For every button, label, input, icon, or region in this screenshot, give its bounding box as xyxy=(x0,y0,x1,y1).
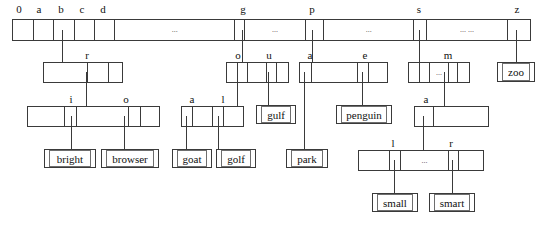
node-go-cell-3[interactable] xyxy=(224,107,243,126)
node-sm-cell-1[interactable] xyxy=(434,107,488,126)
leaf-zoo[interactable]: zoo xyxy=(497,62,535,82)
edge-g-to-gulf xyxy=(268,72,269,105)
leaf-penguin[interactable]: penguin xyxy=(336,105,392,124)
node-p-label-a: a xyxy=(303,50,317,61)
root-cell-g[interactable] xyxy=(235,20,245,40)
node-g-cell-o[interactable] xyxy=(238,63,249,82)
leaf-bright-label: bright xyxy=(49,150,91,167)
node-g[interactable] xyxy=(226,62,289,83)
node-p-cell-a[interactable] xyxy=(300,63,312,82)
node-s-label-m: m xyxy=(441,50,455,61)
edge-p-to-penguin xyxy=(362,72,363,105)
node-sma-cell-l[interactable] xyxy=(390,151,401,170)
edge-g-to-go xyxy=(237,72,238,106)
node-sma-cell-4[interactable] xyxy=(459,151,483,170)
node-br-label-i: i xyxy=(64,94,78,105)
node-s-cell-m[interactable] xyxy=(449,63,459,82)
node-s-cell-4[interactable] xyxy=(458,63,469,82)
edge-br-to-browser xyxy=(124,116,125,149)
node-sma-cell-ellipsis: ... xyxy=(401,151,448,170)
node-br-cell-2[interactable] xyxy=(77,107,129,126)
node-p-cell-3[interactable] xyxy=(369,63,387,82)
leaf-goat[interactable]: goat xyxy=(172,149,212,168)
leaf-zoo-label: zoo xyxy=(502,63,530,81)
edge-go-to-golf xyxy=(218,116,219,149)
edge-s-to-sm xyxy=(444,72,445,106)
leaf-smart[interactable]: smart xyxy=(429,193,475,212)
root-cell-ellipsis-3: ... xyxy=(324,20,414,40)
node-br-cell-0[interactable] xyxy=(28,107,65,126)
node-sm-label-a: a xyxy=(419,94,433,105)
leaf-browser-label: browser xyxy=(106,150,154,167)
leaf-small-label: small xyxy=(377,194,413,211)
node-p[interactable] xyxy=(299,62,388,83)
root-label-0: 0 xyxy=(10,4,28,15)
node-sma-cell-0[interactable] xyxy=(359,151,390,170)
root-cell-a[interactable] xyxy=(34,20,54,40)
node-sma[interactable]: ... xyxy=(358,150,484,171)
node-p-cell-1[interactable] xyxy=(312,63,358,82)
node-b-cell-2[interactable] xyxy=(109,63,122,82)
root-cell-ellipsis-1: ... xyxy=(115,20,235,40)
root-cell-ellipsis-4: ... ... xyxy=(427,20,508,40)
node-g-cell-2[interactable] xyxy=(248,63,266,82)
node-s[interactable]: ... xyxy=(408,62,470,83)
node-sma-label-r: r xyxy=(444,138,458,149)
node-sm[interactable] xyxy=(414,106,489,127)
node-go[interactable] xyxy=(181,106,244,127)
root-cell-ellipsis-2: ... xyxy=(245,20,306,40)
leaf-golf[interactable]: golf xyxy=(216,149,256,168)
root-label-s: s xyxy=(410,4,428,15)
node-s-cell-ellipsis: ... xyxy=(430,63,448,82)
edge-root-to-b xyxy=(62,30,63,62)
node-b-label-r: r xyxy=(80,50,94,61)
node-s-cell-0[interactable] xyxy=(409,63,420,82)
leaf-smart-label: smart xyxy=(434,194,470,211)
node-b-cell-r[interactable] xyxy=(88,63,109,82)
node-br-label-o: o xyxy=(119,94,133,105)
root-cell-d[interactable] xyxy=(95,20,115,40)
edge-sm-to-sma xyxy=(423,116,424,150)
node-p-label-e: e xyxy=(358,50,372,61)
edge-root-to-zoo xyxy=(516,30,517,62)
leaf-penguin-label: penguin xyxy=(341,106,387,123)
leaf-browser[interactable]: browser xyxy=(101,149,159,168)
root-label-p: p xyxy=(303,4,321,15)
root-cell-c[interactable] xyxy=(75,20,95,40)
root-label-a: a xyxy=(30,4,48,15)
root-label-g: g xyxy=(234,4,252,15)
leaf-park[interactable]: park xyxy=(286,149,328,168)
leaf-goat-label: goat xyxy=(177,150,207,167)
node-sma-label-l: l xyxy=(386,138,400,149)
root-label-b: b xyxy=(52,4,70,15)
node-b[interactable] xyxy=(43,62,123,83)
root-cell-0[interactable] xyxy=(13,20,34,40)
edge-b-to-br xyxy=(86,72,87,106)
root-cell-p[interactable] xyxy=(306,20,324,40)
node-br-cell-4[interactable] xyxy=(141,107,159,126)
root-cell-z[interactable] xyxy=(508,20,530,40)
node-g-label-o: o xyxy=(231,50,245,61)
root-label-c: c xyxy=(73,4,91,15)
leaf-gulf[interactable]: gulf xyxy=(256,105,296,124)
root-node[interactable]: ... ... ... ... ... xyxy=(12,19,531,41)
leaf-gulf-label: gulf xyxy=(261,106,291,123)
node-br-cell-o[interactable] xyxy=(129,107,141,126)
leaf-small[interactable]: small xyxy=(372,193,418,212)
root-cell-s[interactable] xyxy=(414,20,427,40)
trie-diagram: 0 a b c d g p s z ... ... ... ... ... r … xyxy=(0,0,543,226)
node-g-cell-4[interactable] xyxy=(277,63,288,82)
edge-p-to-park xyxy=(304,72,305,149)
node-p-cell-e[interactable] xyxy=(358,63,370,82)
node-sm-cell-a[interactable] xyxy=(415,107,434,126)
node-sma-cell-r[interactable] xyxy=(449,151,460,170)
node-s-cell-1[interactable] xyxy=(420,63,431,82)
edge-sma-to-small xyxy=(394,160,395,193)
root-cell-b[interactable] xyxy=(54,20,74,40)
leaf-bright[interactable]: bright xyxy=(44,149,96,168)
root-label-z: z xyxy=(508,4,526,15)
node-go-cell-a[interactable] xyxy=(182,107,193,126)
node-b-cell-0[interactable] xyxy=(44,63,88,82)
node-br[interactable] xyxy=(27,106,160,127)
node-go-cell-1[interactable] xyxy=(193,107,213,126)
